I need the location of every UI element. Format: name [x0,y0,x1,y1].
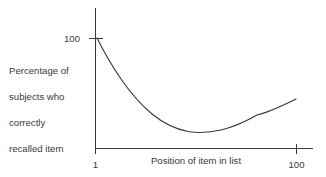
x-tick-label-1: 1 [93,159,98,170]
x-tick-label-100: 100 [288,159,304,170]
x-axis-label: Position of item in list [134,155,258,167]
y-axis-label: Percentage of subjects who correctly rec… [9,51,89,168]
y-axis-label-line-1: Percentage of [9,64,89,77]
y-axis-label-line-4: recalled item [9,142,89,155]
y-axis-label-line-2: subjects who [9,90,89,103]
y-tick-label-100: 100 [64,33,80,44]
serial-position-curve-figure: 100 1 100 Percentage of subjects who cor… [0,0,326,177]
y-axis-label-line-3: correctly [9,116,89,129]
